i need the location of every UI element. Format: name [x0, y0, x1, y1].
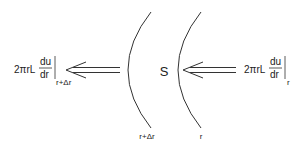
- left-flux-eval-point: r+Δr: [56, 78, 72, 87]
- left-flux-prefix: 2πrL: [14, 64, 36, 75]
- inner-surface-label: r: [200, 132, 203, 141]
- right-flux-eval-point: r: [287, 78, 290, 87]
- flux-balance-diagram: S 2πrL du dr r+Δr 2πrL du dr r r+Δr r: [0, 0, 300, 150]
- left-flux-expression: 2πrL du dr r+Δr: [14, 56, 72, 87]
- right-flux-numerator: du: [270, 56, 281, 67]
- left-flux-denominator: dr: [40, 69, 50, 80]
- outer-surface-label: r+Δr: [139, 132, 155, 141]
- right-flux-prefix: 2πrL: [244, 64, 266, 75]
- outer-surface-arc: [128, 12, 151, 128]
- inner-surface-arc: [178, 12, 201, 128]
- left-flux-numerator: du: [40, 56, 51, 67]
- diagram-svg: S 2πrL du dr r+Δr 2πrL du dr r r+Δr r: [0, 0, 300, 150]
- right-flux-arrow: [183, 62, 236, 78]
- region-label: S: [160, 64, 169, 79]
- right-flux-denominator: dr: [270, 69, 280, 80]
- left-flux-arrow: [66, 62, 120, 78]
- right-flux-expression: 2πrL du dr r: [244, 56, 290, 87]
